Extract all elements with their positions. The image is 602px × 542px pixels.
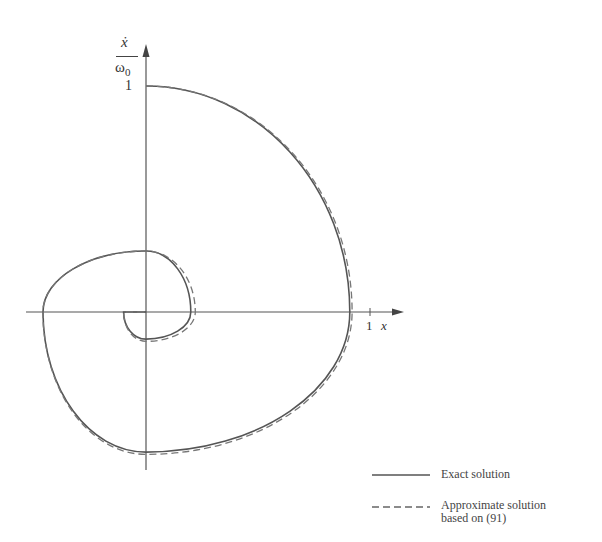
omega-subscript: 0 — [125, 66, 131, 78]
x-tick-label-1: 1 — [366, 318, 373, 334]
legend-exact-label: Exact solution — [441, 468, 510, 481]
x-axis-label: x — [381, 318, 387, 334]
y-axis-arrow — [143, 44, 150, 57]
legend-approx-label-line2: based on (91) — [441, 512, 506, 525]
y-axis-label-denominator: ω0 — [115, 59, 130, 78]
y-axis-label-fraction-bar — [116, 56, 138, 57]
y-axis-label-numerator: ẋ — [121, 34, 128, 51]
exact-solution-curve — [43, 86, 350, 452]
x-axis-arrow — [392, 309, 404, 316]
phase-plane-plot — [0, 0, 602, 542]
y-tick-label-1: 1 — [125, 78, 132, 94]
omega-symbol: ω — [115, 59, 125, 75]
